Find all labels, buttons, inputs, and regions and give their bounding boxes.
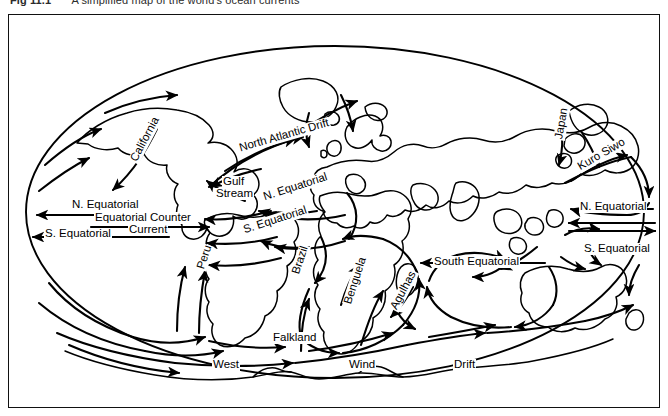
current-label-s-equatorial-east: S. Equatorial bbox=[583, 243, 651, 255]
current-label-wind: Wind bbox=[348, 359, 376, 371]
current-label-west: West bbox=[212, 359, 240, 371]
current-label-gulf-stream-2: Stream bbox=[215, 188, 254, 200]
figure-title: A simplified map of the world's ocean cu… bbox=[71, 0, 299, 6]
current-label-equatorial-counter: Equatorial Counter bbox=[94, 212, 192, 224]
current-label-south-equatorial: South Equatorial bbox=[433, 256, 520, 268]
current-label-drift: Drift bbox=[453, 359, 476, 371]
current-label-n-equatorial-west: N. Equatorial bbox=[71, 199, 139, 211]
current-label-n-equatorial-east: N. Equatorial bbox=[579, 201, 647, 213]
current-label-equatorial-current: Current bbox=[128, 224, 168, 236]
figure-caption: Fig 11.1 A simplified map of the world's… bbox=[10, 0, 300, 6]
current-label-gulf-stream-1: Gulf bbox=[222, 176, 245, 188]
figure-frame: .coast { fill:none; stroke:#000; stroke-… bbox=[8, 14, 660, 408]
current-label-s-equatorial-west: S. Equatorial bbox=[44, 228, 112, 240]
figure-number: Fig 11.1 bbox=[10, 0, 51, 6]
current-label-falkland: Falkland bbox=[272, 332, 317, 344]
